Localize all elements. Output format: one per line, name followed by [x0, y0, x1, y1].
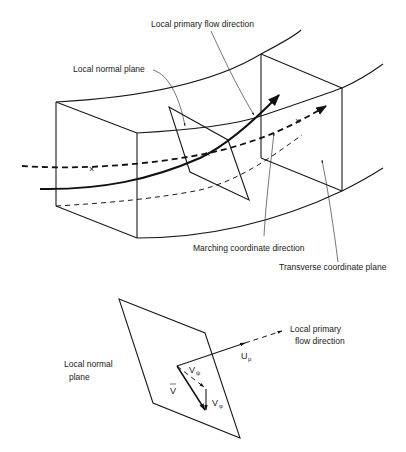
cross-marker: ×: [205, 149, 210, 159]
label-v-phi-sub: φ: [219, 403, 223, 409]
cross-marker: ×: [295, 116, 300, 126]
label-v-bar: V: [170, 386, 176, 396]
label-local-primary-flow: Local primary flow direction: [151, 19, 254, 29]
label-lower-primary-flow: flow direction: [295, 336, 345, 346]
label-v-phi: V: [212, 398, 218, 408]
marching-dashed-line: [22, 106, 326, 167]
label-transverse-plane: Transverse coordinate plane: [279, 262, 387, 272]
vector-up-extension: [245, 331, 282, 343]
duct-bottom-curve: [137, 168, 383, 238]
label-up-sub: p: [248, 356, 252, 362]
duct-front-top-curve: [137, 88, 342, 133]
right-box-edge: [261, 158, 342, 191]
flow-coordinate-diagram: × × × Local primary flow direction Local…: [0, 0, 406, 452]
left-box-edge: [56, 102, 137, 133]
lower-diagram: Local normal plane Local primary flow di…: [64, 299, 345, 438]
duct-upper-right-curve: [342, 64, 383, 88]
label-lower-primary-flow: Local primary: [290, 324, 342, 334]
left-box-edge: [56, 206, 137, 238]
label-local-normal-plane: Local normal plane: [73, 64, 145, 74]
leader-primary-flow: [211, 31, 254, 115]
label-lower-normal-plane: Local normal: [64, 359, 113, 369]
label-v-psi-sub: ψ: [196, 370, 200, 376]
label-lower-normal-plane: plane: [69, 372, 90, 382]
label-up: U: [241, 351, 248, 361]
leader-normal-plane: [153, 70, 185, 126]
label-marching-direction: Marching coordinate direction: [193, 243, 305, 253]
cross-marker: ×: [89, 164, 94, 174]
right-box-edge: [261, 54, 342, 88]
leader-marching: [264, 133, 274, 236]
upper-diagram: × × × Local primary flow direction Local…: [22, 19, 387, 272]
leader-transverse: [322, 160, 338, 262]
label-v-psi: V: [189, 365, 195, 375]
vector-up: [177, 343, 245, 366]
